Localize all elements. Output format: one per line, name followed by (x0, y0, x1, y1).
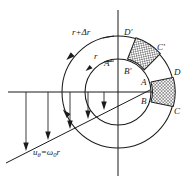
label-inner-radius-text: r (94, 51, 98, 61)
velocity-equation: uθ=ω0r (33, 147, 60, 158)
label-inner-radius: r (94, 51, 98, 61)
element-abcd (151, 77, 175, 106)
circulation-arrow-outer-lower (63, 110, 71, 118)
label-point-d-prime-text: D' (123, 27, 133, 37)
circulation-arrow-inner (86, 65, 93, 71)
label-point-b: B (141, 96, 147, 106)
label-point-a: A (140, 77, 147, 87)
label-point-a-prime: A' (103, 58, 112, 68)
label-outer-radius-text: r+Δr (72, 27, 91, 37)
equation-rhs-factor: r (56, 147, 60, 157)
figure-root: r+Δr r D' C' A' B' D (0, 0, 194, 180)
velocity-arrow-2 (45, 92, 50, 140)
label-point-c: C (174, 106, 181, 116)
label-point-c-prime: C' (157, 42, 166, 52)
label-point-d: D (173, 67, 181, 77)
label-point-c-text: C (174, 106, 181, 116)
label-point-b-text: B (141, 96, 147, 106)
label-point-c-prime-text: C' (157, 42, 166, 52)
rotation-diagram-svg: r+Δr r D' C' A' B' D (0, 0, 194, 180)
label-point-d-prime: D' (123, 27, 133, 37)
velocity-arrow-1 (23, 92, 28, 151)
svg-text:uθ=ω0r: uθ=ω0r (33, 147, 60, 158)
label-point-d-text: D (173, 67, 181, 77)
label-point-a-text: A (140, 77, 147, 87)
label-outer-radius: r+Δr (72, 27, 91, 37)
velocity-profile-line (6, 90, 150, 163)
label-point-b-prime: B' (124, 66, 132, 76)
label-point-a-prime-text: A' (103, 58, 112, 68)
velocity-arrow-5 (101, 92, 106, 110)
label-point-b-prime-text: B' (124, 66, 132, 76)
